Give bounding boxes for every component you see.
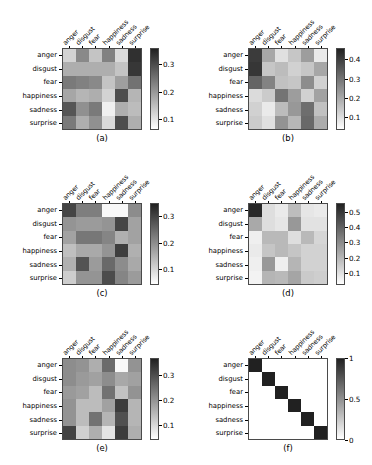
heatmap-cell	[275, 359, 288, 372]
heatmap-cell	[115, 116, 128, 129]
heatmap-cell	[128, 116, 141, 129]
colorbar-tick-mark	[159, 375, 162, 376]
colorbar-gradient	[337, 204, 344, 284]
heatmap-cell	[249, 49, 262, 62]
colorbar-tick-mark	[159, 92, 162, 93]
colorbar-tick-mark	[345, 242, 348, 243]
heatmap-cell	[115, 244, 128, 257]
heatmap-cell	[102, 102, 115, 115]
heatmap-cell	[275, 244, 288, 257]
colorbar-tick-label: 0.2	[163, 238, 174, 247]
heatmap-cell	[89, 49, 102, 62]
y-tick-label: happiness	[0, 89, 59, 103]
heatmap-panel-f: angerdisgustfearhappinesssadnesssurprise…	[186, 310, 372, 465]
heatmap-cell	[301, 386, 314, 399]
heatmap-cell	[314, 399, 327, 412]
heatmap-cell	[301, 217, 314, 230]
heatmap-cell	[63, 231, 76, 244]
y-tick-label: fear	[186, 230, 245, 244]
heatmap-cell	[275, 62, 288, 75]
heatmap-cell	[89, 244, 102, 257]
heatmap-cell	[301, 204, 314, 217]
heatmap-cell	[63, 49, 76, 62]
colorbar-tick-mark	[159, 269, 162, 270]
colorbar-tick-label: 0.5	[349, 208, 360, 217]
heatmap-cell	[288, 372, 301, 385]
heatmap-cell	[115, 89, 128, 102]
heatmap-cell	[275, 372, 288, 385]
heatmap-cell	[314, 217, 327, 230]
heatmap-cell	[89, 372, 102, 385]
colorbar-tick-label: 0.2	[349, 93, 360, 102]
colorbar-tick-label: 0.3	[163, 212, 174, 221]
heatmap-cell	[128, 204, 141, 217]
colorbar-tick-label: 0.1	[163, 421, 174, 430]
heatmap-cell	[128, 49, 141, 62]
heatmap-cell	[301, 271, 314, 284]
heatmap-cell	[275, 386, 288, 399]
heatmap-cell	[128, 62, 141, 75]
colorbar-tick-mark	[345, 79, 348, 80]
heatmap-cell	[288, 49, 301, 62]
heatmap-cells	[248, 48, 328, 130]
y-tick-label: disgust	[186, 217, 245, 231]
colorbar-tick-mark	[345, 358, 348, 359]
heatmap-cell	[89, 231, 102, 244]
x-axis-tick-labels: angerdisgustfearhappinesssadnesssurprise	[248, 155, 328, 203]
heatmap-cell	[262, 372, 275, 385]
heatmap-cell	[63, 76, 76, 89]
y-axis-tick-labels: angerdisgustfearhappinesssadnesssurprise	[186, 48, 245, 130]
heatmap-cell	[128, 257, 141, 270]
heatmap-cell	[275, 412, 288, 425]
y-tick-label: anger	[186, 48, 245, 62]
y-tick-label: sadness	[186, 413, 245, 427]
heatmap-cell	[288, 217, 301, 230]
heatmap-cell	[301, 372, 314, 385]
heatmap-cell	[102, 217, 115, 230]
y-tick-label: happiness	[0, 244, 59, 258]
heatmap-cell	[262, 231, 275, 244]
colorbar-tick-mark	[159, 243, 162, 244]
heatmap-cell	[288, 62, 301, 75]
colorbar-tick-label: 0.1	[349, 112, 360, 121]
heatmap-cell	[262, 217, 275, 230]
heatmap-cell	[76, 116, 89, 129]
heatmap-cells	[62, 48, 142, 130]
colorbar-tick-label: 0.1	[349, 268, 360, 277]
heatmap-cell	[63, 399, 76, 412]
heatmap-cell	[301, 116, 314, 129]
heatmap-cell	[288, 76, 301, 89]
heatmap-cell	[249, 412, 262, 425]
heatmap-cell	[63, 271, 76, 284]
heatmap-cell	[76, 49, 89, 62]
heatmap-cell	[249, 399, 262, 412]
heatmap-cell	[89, 412, 102, 425]
heatmap-cell	[89, 76, 102, 89]
heatmap-cell	[115, 426, 128, 439]
heatmap-cell	[128, 412, 141, 425]
heatmap-cell	[115, 271, 128, 284]
heatmap-cell	[288, 89, 301, 102]
x-axis-tick-labels: angerdisgustfearhappinesssadnesssurprise	[248, 0, 328, 48]
heatmap-cell	[89, 204, 102, 217]
heatmap-cell	[63, 426, 76, 439]
heatmap-cell	[76, 399, 89, 412]
heatmap-cell	[63, 386, 76, 399]
heatmap-cell	[115, 399, 128, 412]
y-tick-label: sadness	[186, 103, 245, 117]
colorbar	[150, 203, 159, 285]
heatmap-cell	[288, 257, 301, 270]
colorbar-tick-label: 0.3	[163, 371, 174, 380]
heatmap-cell	[115, 359, 128, 372]
y-axis-tick-labels: angerdisgustfearhappinesssadnesssurprise	[0, 203, 59, 285]
heatmap-cell	[76, 372, 89, 385]
x-axis-tick-labels: angerdisgustfearhappinesssadnesssurprise	[248, 310, 328, 358]
colorbar-tick-label: 0.3	[349, 238, 360, 247]
heatmap-cell	[102, 372, 115, 385]
y-tick-label: fear	[0, 230, 59, 244]
heatmap-cell	[249, 116, 262, 129]
heatmap-cell	[314, 244, 327, 257]
panel-caption: (c)	[62, 288, 142, 298]
heatmap-figure-grid: angerdisgustfearhappinesssadnesssurprise…	[0, 0, 372, 465]
colorbar-tick-label: 0.1	[163, 265, 174, 274]
